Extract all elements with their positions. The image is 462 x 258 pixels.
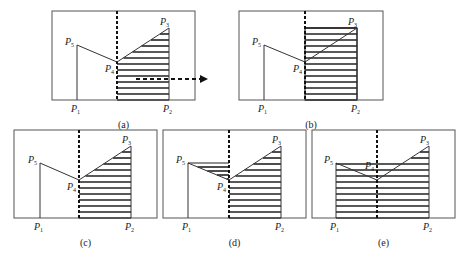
hatch-lines — [79, 146, 131, 218]
panel-caption: (b) — [305, 119, 317, 131]
point-label-p4: P4 — [66, 181, 76, 193]
panel-caption: (d) — [229, 237, 241, 249]
panel-caption: (c) — [80, 237, 91, 249]
point-label-p5: P5 — [323, 154, 333, 166]
point-label-p3: P3 — [419, 134, 429, 146]
panel-frame — [312, 130, 455, 218]
hatch-lines — [117, 28, 169, 100]
point-label-p2: P2 — [422, 221, 432, 233]
point-label-p1: P1 — [181, 221, 191, 233]
panel-frame — [14, 130, 157, 218]
panel-caption: (a) — [118, 119, 129, 131]
hatch-lines — [188, 146, 281, 218]
arrow-head-icon — [200, 75, 208, 83]
point-label-p4: P4 — [104, 63, 114, 75]
point-label-p5: P5 — [27, 154, 37, 166]
panel-e: P1P2P3P5P4(e) — [312, 130, 455, 249]
point-label-p1: P1 — [257, 103, 267, 115]
point-label-p2: P2 — [274, 221, 284, 233]
point-label-p5: P5 — [251, 36, 261, 48]
point-label-p4: P4 — [292, 63, 302, 75]
hatch-lines — [305, 28, 357, 100]
point-label-p2: P2 — [124, 221, 134, 233]
panel-frame — [52, 11, 195, 100]
point-label-p2: P2 — [350, 103, 360, 115]
panel-frame — [163, 130, 306, 218]
point-label-p3: P3 — [121, 134, 131, 146]
panel-frame — [239, 11, 383, 100]
point-label-p5: P5 — [64, 36, 74, 48]
panel-c: P1P2P3P5P4(c) — [14, 130, 157, 249]
point-label-p1: P1 — [70, 103, 80, 115]
point-label-p3: P3 — [159, 16, 169, 28]
point-label-p3: P3 — [271, 134, 281, 146]
diagram-figure: P1P2P3P5P4(a)P1P2P3P5P4(b)P1P2P3P5P4(c)P… — [0, 0, 462, 258]
point-label-p5: P5 — [175, 154, 185, 166]
panel-a: P1P2P3P5P4(a) — [52, 11, 208, 131]
point-label-p3: P3 — [347, 16, 357, 28]
point-label-p4: P4 — [216, 181, 226, 193]
point-label-p1: P1 — [329, 221, 339, 233]
point-label-p1: P1 — [33, 221, 43, 233]
panel-d: P1P2P3P5P4(d) — [163, 130, 306, 249]
point-label-p4: P4 — [364, 160, 374, 172]
hatch-lines — [336, 146, 429, 218]
panel-caption: (e) — [378, 237, 389, 249]
panel-b: P1P2P3P5P4(b) — [239, 11, 383, 131]
point-label-p2: P2 — [162, 103, 172, 115]
